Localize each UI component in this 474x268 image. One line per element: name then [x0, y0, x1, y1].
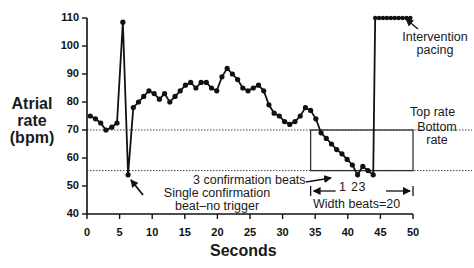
intervention-arrow-icon	[406, 19, 418, 29]
x-tick-label: 15	[175, 226, 195, 238]
x-tick-label: 20	[207, 226, 227, 238]
data-point	[225, 66, 230, 71]
data-point	[308, 108, 313, 113]
bottom-rate-line2: rate	[412, 134, 462, 147]
y-tick-label: 100	[57, 39, 79, 51]
data-point	[120, 20, 125, 25]
data-point	[125, 172, 130, 177]
data-point	[93, 116, 98, 121]
data-point	[167, 99, 172, 104]
data-point	[109, 125, 114, 130]
data-point	[272, 111, 277, 116]
width-beats-label: Width beats=20	[313, 198, 400, 211]
y-axis-label-line2: rate	[2, 113, 62, 130]
data-point	[266, 102, 271, 107]
data-point	[188, 80, 193, 85]
data-point	[103, 127, 108, 132]
pacing-jump-line	[373, 18, 375, 175]
data-point	[214, 88, 219, 93]
data-point	[313, 116, 318, 121]
x-tick-label: 30	[273, 226, 293, 238]
x-tick-label: 50	[403, 226, 423, 238]
x-tick-label: 0	[77, 226, 97, 238]
beat-1-label: 1	[339, 181, 346, 194]
data-point	[292, 119, 297, 124]
data-point	[230, 71, 235, 76]
three-confirm-arrow-icon	[306, 178, 331, 182]
pacing-point	[373, 16, 377, 20]
pacing-point	[393, 16, 397, 20]
pacing-point	[396, 16, 400, 20]
data-point	[355, 172, 360, 177]
x-axis-label: Seconds	[210, 243, 277, 260]
x-tick-label: 35	[305, 226, 325, 238]
pacing-point	[400, 16, 404, 20]
intervention-line2: pacing	[398, 44, 472, 57]
data-point	[277, 113, 282, 118]
x-tick-label: 40	[338, 226, 358, 238]
y-tick-label: 90	[57, 67, 79, 79]
data-point	[282, 119, 287, 124]
y-tick-label: 80	[57, 95, 79, 107]
data-point	[136, 99, 141, 104]
pacing-point	[377, 16, 381, 20]
single-confirm-line2: beat–no trigger	[146, 200, 288, 213]
data-point	[365, 168, 370, 173]
x-tick-label: 45	[370, 226, 390, 238]
beat-23-label: 23	[351, 181, 366, 194]
data-point	[98, 120, 103, 125]
data-point	[261, 88, 266, 93]
y-tick-label: 60	[57, 151, 79, 163]
data-point	[199, 80, 204, 85]
data-point	[256, 83, 261, 88]
pacing-point	[389, 16, 393, 20]
data-point	[287, 122, 292, 127]
intervention-pacing-annotation: Intervention pacing	[398, 31, 472, 57]
data-series	[88, 16, 413, 178]
y-axis-label-line3: (bpm)	[2, 130, 62, 147]
data-point	[204, 80, 209, 85]
data-point	[303, 105, 308, 110]
data-point	[324, 136, 329, 141]
pacing-point	[408, 16, 412, 20]
data-point	[360, 164, 365, 169]
y-axis-label-line1: Atrial	[2, 96, 62, 113]
y-tick-label: 50	[57, 179, 79, 191]
bottom-rate-label: Bottom rate	[412, 121, 462, 147]
single-confirmation-annotation: Single confirmation beat–no trigger	[146, 187, 288, 213]
data-point	[193, 85, 198, 90]
y-tick-label: 110	[57, 11, 79, 23]
data-point	[88, 113, 93, 118]
data-point	[114, 120, 119, 125]
data-point	[219, 74, 224, 79]
pacing-point	[385, 16, 389, 20]
data-point	[245, 88, 250, 93]
data-point	[131, 105, 136, 110]
single-confirmation-arrow-icon	[131, 180, 143, 195]
data-point	[345, 157, 350, 162]
data-point	[350, 162, 355, 167]
data-point	[298, 113, 303, 118]
data-point	[141, 94, 146, 99]
data-point	[318, 130, 323, 135]
atrial-rate-line	[90, 22, 373, 175]
top-rate-label: Top rate	[410, 106, 455, 119]
y-axis-label: Atrial rate (bpm)	[2, 96, 62, 146]
x-tick-label: 5	[110, 226, 130, 238]
data-point	[240, 85, 245, 90]
data-point	[162, 91, 167, 96]
y-tick-label: 70	[57, 123, 79, 135]
data-point	[339, 151, 344, 156]
data-point	[209, 85, 214, 90]
y-tick-label: 40	[57, 207, 79, 219]
data-point	[334, 147, 339, 152]
pacing-point	[381, 16, 385, 20]
data-point	[235, 77, 240, 82]
x-tick-label: 10	[142, 226, 162, 238]
data-point	[146, 88, 151, 93]
data-point	[251, 85, 256, 90]
data-point	[152, 91, 157, 96]
data-point	[329, 141, 334, 146]
data-point	[178, 88, 183, 93]
data-point	[183, 83, 188, 88]
